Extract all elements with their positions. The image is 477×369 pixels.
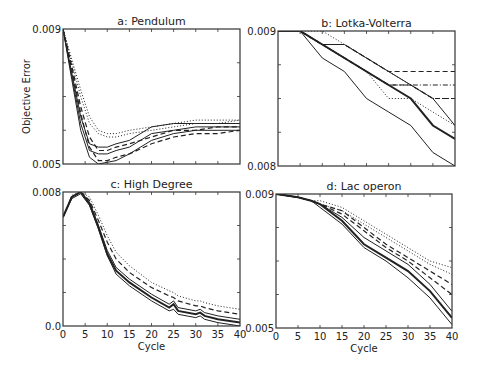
series-group — [276, 194, 452, 325]
line-dotted-1 — [276, 194, 452, 274]
line-solid-low — [63, 194, 240, 326]
subplot-4: d: Lac operon0.0090.0050510152025303540C… — [245, 180, 458, 354]
subplot-3: c: High Degree0.0080.00510152025303540Cy… — [32, 178, 246, 352]
line-solid-mean — [278, 31, 455, 139]
ytick-bottom: 0.0 — [45, 321, 61, 332]
subplot-title: a: Pendulum — [117, 15, 186, 28]
subplot-title: b: Lotka-Volterra — [321, 17, 412, 30]
line-dashed-2 — [63, 29, 240, 151]
line-solid-mean — [63, 192, 240, 323]
xtick-label: 0 — [273, 331, 279, 342]
line-solid-high — [63, 192, 240, 319]
xtick-label: 15 — [336, 331, 349, 342]
line-dotted — [63, 192, 240, 309]
ytick-top: 0.009 — [247, 26, 276, 37]
line-solid-3 — [63, 29, 240, 147]
xtick-label: 40 — [446, 331, 459, 342]
line-dashed — [63, 192, 240, 314]
line-solid-low — [278, 31, 455, 166]
xtick-label: 5 — [82, 329, 88, 340]
figure-canvas: a: Pendulum0.0090.005Objective Errorb: L… — [0, 0, 477, 369]
line-dotted-1 — [278, 31, 455, 99]
plot-frame — [276, 194, 452, 328]
xtick-label: 30 — [402, 331, 415, 342]
subplot-2: b: Lotka-Volterra0.0090.008 — [247, 17, 455, 172]
xtick-label: 15 — [123, 329, 136, 340]
xtick-label: 20 — [145, 329, 158, 340]
xtick-label: 20 — [358, 331, 371, 342]
x-axis-label: Cycle — [350, 343, 377, 354]
line-dotted-2 — [63, 29, 240, 134]
line-solid-2 — [63, 29, 240, 154]
line-dashed-2 — [276, 194, 452, 284]
series-group — [63, 192, 240, 326]
ytick-top: 0.008 — [32, 187, 61, 198]
x-axis-label: Cycle — [138, 341, 165, 352]
ytick-bottom: 0.005 — [245, 323, 274, 334]
xtick-label: 35 — [424, 331, 437, 342]
plot-frame — [63, 192, 240, 326]
line-dashed-2 — [278, 31, 455, 99]
line-dotted-1 — [63, 29, 240, 137]
subplot-1: a: Pendulum0.0090.005Objective Error — [21, 15, 240, 170]
xtick-label: 30 — [189, 329, 202, 340]
xtick-label: 25 — [167, 329, 180, 340]
subplot-title: c: High Degree — [110, 178, 192, 191]
line-solid-mean — [276, 194, 452, 318]
xtick-label: 35 — [212, 329, 225, 340]
xtick-label: 5 — [295, 331, 301, 342]
series-group — [63, 29, 240, 164]
xtick-label: 25 — [380, 331, 393, 342]
xtick-label: 10 — [101, 329, 114, 340]
line-solid-low — [276, 194, 452, 325]
ytick-top: 0.009 — [32, 24, 61, 35]
ytick-bottom: 0.005 — [32, 159, 61, 170]
xtick-label: 0 — [60, 329, 66, 340]
line-solid-high — [278, 31, 455, 126]
xtick-label: 10 — [314, 331, 327, 342]
ytick-bottom: 0.008 — [247, 161, 276, 172]
series-group — [278, 31, 455, 166]
subplot-title: d: Lac operon — [326, 180, 401, 193]
ytick-top: 0.009 — [245, 189, 274, 200]
y-axis-label: Objective Error — [21, 58, 32, 134]
line-dotted-2 — [278, 31, 455, 126]
